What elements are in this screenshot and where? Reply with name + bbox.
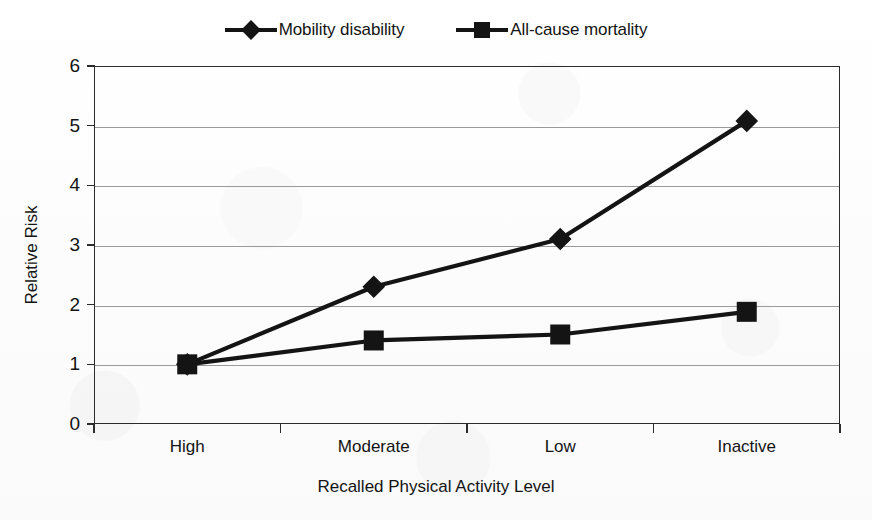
y-axis-tick-label: 1: [46, 353, 80, 375]
x-axis-tick-mark: [93, 424, 95, 433]
x-axis-tick-mark: [466, 424, 468, 433]
x-axis-tick-label: Moderate: [294, 437, 454, 457]
x-axis-tick-label: Low: [480, 437, 640, 457]
y-axis-tick-label: 4: [46, 174, 80, 196]
y-axis-tick-label: 6: [46, 55, 80, 77]
plot-area: [94, 66, 840, 424]
chart-figure: Mobility disability All-cause mortality …: [0, 0, 872, 520]
x-axis-title: Recalled Physical Activity Level: [0, 477, 872, 497]
legend-square-marker-icon: [456, 20, 508, 40]
x-axis-tick-mark: [839, 424, 841, 433]
legend-entry-mobility-disability: Mobility disability: [225, 20, 405, 40]
x-axis-tick-label: Inactive: [667, 437, 827, 457]
gridline: [95, 306, 839, 307]
y-axis-tick-label: 3: [46, 234, 80, 256]
legend-label-mobility-disability: Mobility disability: [277, 20, 405, 40]
legend-label-all-cause-mortality: All-cause mortality: [508, 20, 647, 40]
x-axis-tick-mark: [653, 424, 655, 433]
y-axis-title: Relative Risk: [22, 175, 42, 335]
y-axis-tick-label: 2: [46, 294, 80, 316]
chart-legend: Mobility disability All-cause mortality: [0, 20, 872, 40]
x-axis-tick-mark: [280, 424, 282, 433]
gridline: [95, 127, 839, 128]
x-axis-tick-label: High: [107, 437, 267, 457]
y-axis-tick-label: 0: [46, 413, 80, 435]
gridline: [95, 365, 839, 366]
gridline: [95, 186, 839, 187]
gridline: [95, 246, 839, 247]
legend-diamond-marker-icon: [225, 20, 277, 40]
y-axis-tick-label: 5: [46, 115, 80, 137]
legend-entry-all-cause-mortality: All-cause mortality: [456, 20, 647, 40]
